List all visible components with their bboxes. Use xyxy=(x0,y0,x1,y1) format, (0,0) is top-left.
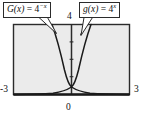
callout-label-G: G(x) = 4−x xyxy=(3,2,51,18)
origin-label: 0 xyxy=(66,103,71,113)
callout-right-exponent: x xyxy=(113,1,116,8)
callout-left-exponent: −x xyxy=(39,1,46,8)
x-axis-max-label: 3 xyxy=(134,85,139,95)
callout-left-fn: G(x) xyxy=(7,4,24,14)
callout-right-fn: g(x) xyxy=(83,4,98,14)
callout-label-g: g(x) = 4x xyxy=(79,2,120,18)
x-axis-min-label: -3 xyxy=(0,85,8,95)
y-axis-max-label: 4 xyxy=(67,12,72,22)
figure-container: G(x) = 4−x g(x) = 4x 4 0 -3 3 xyxy=(0,0,142,116)
callout-left-equals: = xyxy=(24,4,34,14)
callout-right-equals: = xyxy=(98,4,108,14)
